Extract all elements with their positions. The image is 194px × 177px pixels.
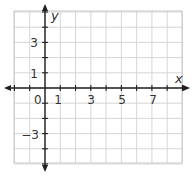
y-axis-up-arrow-icon bbox=[42, 4, 48, 11]
axes bbox=[4, 4, 190, 172]
y-tick-label-neg3: −3 bbox=[21, 128, 39, 142]
x-axis-right-arrow-icon bbox=[183, 85, 190, 91]
y-tick-label-3: 3 bbox=[30, 36, 38, 50]
y-axis-down-arrow-icon bbox=[42, 165, 48, 172]
grid-border bbox=[14, 11, 182, 163]
origin-label: 0 bbox=[34, 93, 42, 107]
x-axis-label: x bbox=[174, 71, 183, 86]
x-tick-label-3: 3 bbox=[87, 93, 95, 107]
x-axis-left-arrow-icon bbox=[4, 85, 11, 91]
x-tick-label-7: 7 bbox=[149, 93, 157, 107]
y-axis-label: y bbox=[50, 8, 59, 23]
y-tick-label-1: 1 bbox=[30, 67, 38, 81]
x-tick-label-5: 5 bbox=[118, 93, 126, 107]
x-tick-label-1: 1 bbox=[54, 93, 62, 107]
coordinate-plane: y x 0 1 3 5 7 3 1 −3 bbox=[0, 0, 194, 177]
